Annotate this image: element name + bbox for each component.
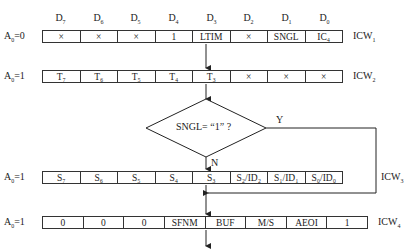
bit-cell: IC₄ bbox=[306, 31, 343, 42]
register-name: ICW3 bbox=[381, 171, 403, 184]
register-cells: S₇ S₆ S₅ S₄ S₃ S₂/ID₂ S₁/ID₁ S₀/ID₀ bbox=[42, 171, 343, 184]
register-name: ICW2 bbox=[353, 70, 375, 83]
bit-cell: 0 bbox=[84, 217, 125, 228]
bit-cell: × bbox=[268, 71, 306, 82]
bit-cell: 0 bbox=[124, 217, 165, 228]
bit-cell: S₀/ID₀ bbox=[306, 172, 343, 183]
bit-cell: BUF bbox=[206, 217, 247, 228]
bit-cell: 0 bbox=[43, 217, 84, 228]
bit-cell: T₄ bbox=[156, 71, 194, 82]
bit-cell: M/S bbox=[246, 217, 287, 228]
register-cells: × × × 1 LTIM × SNGL IC₄ bbox=[42, 30, 343, 43]
address-label: A0=1 bbox=[4, 70, 40, 83]
bit-cell: S₇ bbox=[43, 172, 81, 183]
bit-cell: × bbox=[231, 31, 269, 42]
bit-cell: S₆ bbox=[81, 172, 119, 183]
bit-cell: T₃ bbox=[193, 71, 231, 82]
bit-cell: 1 bbox=[156, 31, 194, 42]
bit-cell: S₁/ID₁ bbox=[268, 172, 306, 183]
address-label: A0=1 bbox=[4, 171, 40, 184]
bit-cell: × bbox=[43, 31, 81, 42]
decision-no-label: N bbox=[211, 157, 218, 168]
bit-cell: S₃ bbox=[193, 172, 231, 183]
register-name: ICW4 bbox=[378, 216, 400, 229]
address-label: A0=1 bbox=[4, 216, 40, 229]
bit-cell: × bbox=[81, 31, 119, 42]
bit-cell: 1 bbox=[327, 217, 367, 228]
bit-cell: S₂/ID₂ bbox=[231, 172, 269, 183]
decision-yes-label: Y bbox=[276, 114, 283, 125]
bit-cell: S₄ bbox=[156, 172, 194, 183]
bit-cell: SNGL bbox=[268, 31, 306, 42]
bit-cell: T₇ bbox=[43, 71, 81, 82]
bit-cell: T₆ bbox=[81, 71, 119, 82]
address-label: A0=0 bbox=[4, 30, 40, 43]
bit-cell: × bbox=[306, 71, 343, 82]
register-cells: T₇ T₆ T₅ T₄ T₃ × × × bbox=[42, 70, 343, 83]
register-cells: 0 0 0 SFNM BUF M/S AEOI 1 bbox=[42, 216, 368, 229]
register-name: ICW1 bbox=[353, 30, 375, 43]
bit-cell: × bbox=[118, 31, 156, 42]
bit-cell: S₅ bbox=[118, 172, 156, 183]
bit-cell: × bbox=[231, 71, 269, 82]
decision-text: SNGL= “1” ? bbox=[176, 121, 231, 132]
bit-cell: AEOI bbox=[287, 217, 328, 228]
bit-cell: T₅ bbox=[118, 71, 156, 82]
bit-cell: SFNM bbox=[165, 217, 206, 228]
bit-cell: LTIM bbox=[193, 31, 231, 42]
